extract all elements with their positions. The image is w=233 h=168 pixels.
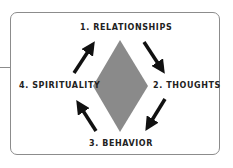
arrow-up-right-icon [74, 47, 91, 73]
node-behavior: 3. BEHAVIOR [89, 139, 153, 149]
center-diamond [93, 40, 148, 132]
node-spirituality: 4. SPIRITUALITY [19, 81, 100, 91]
node-relationships: 1. RELATIONSHIPS [80, 23, 172, 33]
arrow-up-left-icon [80, 106, 96, 131]
node-thoughts: 2. THOUGHTS [153, 81, 221, 91]
arrow-down-left-icon [149, 99, 165, 125]
arrow-down-right-icon [144, 42, 161, 68]
